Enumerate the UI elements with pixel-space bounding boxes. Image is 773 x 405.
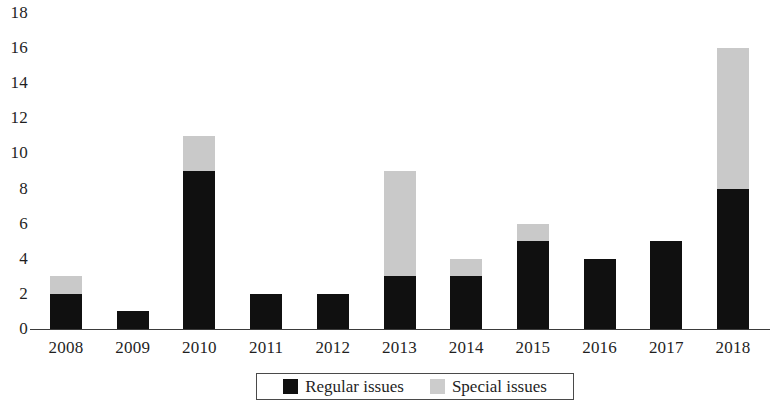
bar-segment-regular[interactable] bbox=[650, 241, 682, 329]
x-tick-label: 2018 bbox=[701, 338, 765, 358]
legend-swatch-regular-icon bbox=[283, 379, 298, 394]
bar-segment-regular[interactable] bbox=[450, 276, 482, 329]
x-tick-label: 2017 bbox=[634, 338, 698, 358]
bar-segment-regular[interactable] bbox=[117, 311, 149, 329]
x-tick-label: 2014 bbox=[434, 338, 498, 358]
bar-group[interactable] bbox=[250, 294, 282, 329]
x-tick-label: 2016 bbox=[568, 338, 632, 358]
x-tick-label: 2011 bbox=[234, 338, 298, 358]
bar-segment-special[interactable] bbox=[384, 171, 416, 276]
chart-legend: Regular issues Special issues bbox=[256, 373, 574, 400]
x-tick-label: 2015 bbox=[501, 338, 565, 358]
x-axis: 2008200920102011201220132014201520162017… bbox=[0, 338, 773, 362]
bar-group[interactable] bbox=[517, 224, 549, 329]
bar-segment-special[interactable] bbox=[517, 224, 549, 242]
bar-group[interactable] bbox=[650, 241, 682, 329]
legend-entry-regular[interactable]: Regular issues bbox=[283, 378, 404, 395]
x-tick-label: 2009 bbox=[101, 338, 165, 358]
bar-segment-regular[interactable] bbox=[517, 241, 549, 329]
x-tick-label: 2008 bbox=[34, 338, 98, 358]
x-tick-label: 2013 bbox=[368, 338, 432, 358]
bar-group[interactable] bbox=[117, 311, 149, 329]
bar-segment-regular[interactable] bbox=[717, 189, 749, 329]
bar-segment-regular[interactable] bbox=[50, 294, 82, 329]
bar-group[interactable] bbox=[317, 294, 349, 329]
legend-label-special: Special issues bbox=[452, 378, 547, 395]
stacked-bar-chart: 024681012141618 200820092010201120122013… bbox=[0, 0, 773, 405]
legend-entry-special[interactable]: Special issues bbox=[430, 378, 547, 395]
bar-group[interactable] bbox=[450, 259, 482, 329]
bar-segment-special[interactable] bbox=[717, 48, 749, 188]
x-axis-line bbox=[30, 329, 770, 330]
bar-segment-regular[interactable] bbox=[384, 276, 416, 329]
plot-area bbox=[0, 0, 773, 329]
bar-segment-special[interactable] bbox=[183, 136, 215, 171]
bar-group[interactable] bbox=[183, 136, 215, 329]
bar-segment-regular[interactable] bbox=[584, 259, 616, 329]
bar-group[interactable] bbox=[384, 171, 416, 329]
x-tick-label: 2010 bbox=[167, 338, 231, 358]
bar-group[interactable] bbox=[50, 276, 82, 329]
bar-group[interactable] bbox=[584, 259, 616, 329]
legend-label-regular: Regular issues bbox=[305, 378, 404, 395]
bar-segment-regular[interactable] bbox=[317, 294, 349, 329]
bar-segment-regular[interactable] bbox=[250, 294, 282, 329]
bar-group[interactable] bbox=[717, 48, 749, 329]
bar-segment-special[interactable] bbox=[450, 259, 482, 277]
bar-segment-special[interactable] bbox=[50, 276, 82, 294]
bar-segment-regular[interactable] bbox=[183, 171, 215, 329]
legend-swatch-special-icon bbox=[430, 379, 445, 394]
x-tick-label: 2012 bbox=[301, 338, 365, 358]
